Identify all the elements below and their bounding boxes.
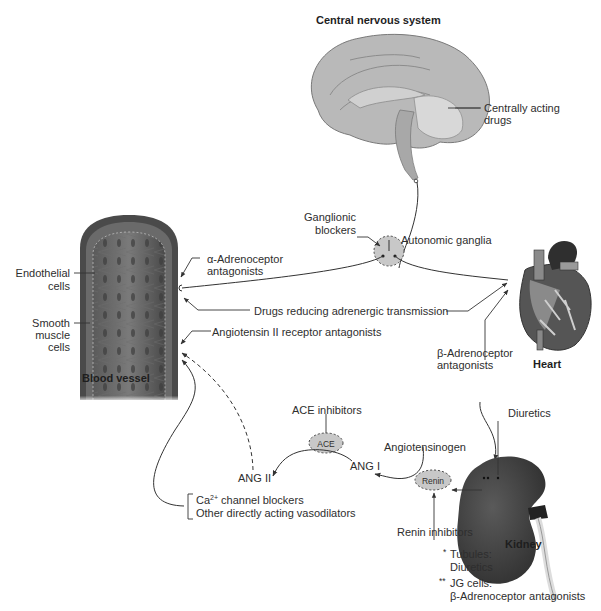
- smooth-muscle-label-3: cells: [0, 341, 70, 353]
- centrally-acting-label-2: drugs: [484, 114, 512, 126]
- endothelial-cells-label-1: Endothelial: [0, 267, 70, 279]
- tubules-footnote-2: Diuretics: [450, 561, 493, 573]
- drugs-reducing-adrenergic-label: Drugs reducing adrenergic transmission: [254, 305, 448, 317]
- ace-inhibitors-label: ACE inhibitors: [292, 404, 362, 416]
- ganglionic-blockers-label-2: blockers: [280, 224, 356, 236]
- jg-footnote-2: β-Adrenoceptor antagonists: [450, 590, 585, 602]
- smooth-muscle-label-2: muscle: [0, 329, 70, 341]
- angiotensin-receptor-antagonists-label: Angiotensin II receptor antagonists: [212, 326, 381, 338]
- beta-antagonists-label-1: β-Adrenoceptor: [437, 347, 513, 359]
- tubules-footnote-mark: *: [443, 546, 446, 558]
- kidney-title: Kidney: [505, 538, 542, 550]
- hypertension-drug-sites-diagram: Central nervous system Centrally acting …: [0, 0, 601, 611]
- renin-inhibitors-label: Renin inhibitors: [397, 526, 473, 538]
- endothelial-cells-label-2: cells: [0, 280, 70, 292]
- blood-vessel-title: Blood vessel: [82, 372, 150, 384]
- alpha-antagonists-label-2: antagonists: [207, 265, 263, 277]
- autonomic-ganglia-node: [374, 236, 404, 266]
- autonomic-ganglia-label: Autonomic ganglia: [401, 234, 492, 246]
- ca-channel-blockers-label: Ca2+ channel blockers: [196, 494, 304, 506]
- heart-title: Heart: [533, 358, 561, 370]
- ang-ii-label: ANG II: [238, 472, 271, 484]
- alpha-antagonists-label-1: α-Adrenoceptor: [207, 253, 283, 265]
- ganglionic-blockers-label-1: Ganglionic: [280, 211, 356, 223]
- diuretics-label: Diuretics: [508, 407, 551, 419]
- beta-antagonists-label-2: antagonists: [437, 359, 493, 371]
- ca-prefix: Ca: [196, 494, 210, 506]
- heart-illustration: [520, 241, 591, 350]
- angiotensinogen-label: Angiotensinogen: [384, 441, 466, 453]
- ca-suffix: channel blockers: [218, 494, 304, 506]
- smooth-muscle-label-1: Smooth: [0, 317, 70, 329]
- cns-title: Central nervous system: [316, 14, 441, 26]
- tubules-footnote-1: Tubules:: [450, 548, 492, 560]
- jg-footnote-mark: **: [439, 575, 446, 587]
- centrally-acting-label-1: Centrally acting: [484, 102, 560, 114]
- brain-illustration: [311, 34, 489, 182]
- ang-i-label: ANG I: [350, 460, 380, 472]
- ca-superscript: 2+: [210, 494, 218, 501]
- jg-footnote-1: JG cells:: [450, 577, 492, 589]
- ace-label: ACE: [309, 438, 343, 450]
- other-vasodilators-label: Other directly acting vasodilators: [196, 507, 356, 519]
- renin-label: Renin: [415, 475, 451, 487]
